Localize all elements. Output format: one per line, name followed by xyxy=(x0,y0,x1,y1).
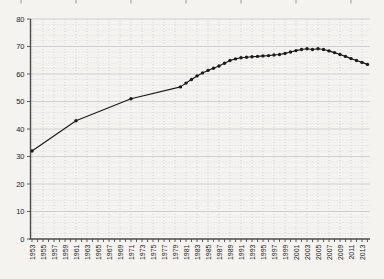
data-point xyxy=(201,71,204,74)
x-tick-label: 1987 xyxy=(216,244,223,260)
line-chart: 0102030405060708019531955195719591961196… xyxy=(0,0,384,279)
data-point xyxy=(316,47,319,50)
data-point xyxy=(30,149,33,152)
x-tick-label: 2003 xyxy=(304,244,311,260)
data-point xyxy=(261,54,264,57)
y-tick-label: 40 xyxy=(16,125,24,134)
data-point xyxy=(300,48,303,51)
x-tick-label: 1979 xyxy=(172,244,179,260)
data-point xyxy=(179,85,182,88)
y-tick-label: 30 xyxy=(16,152,24,161)
y-tick-label: 50 xyxy=(16,97,24,106)
data-point xyxy=(322,48,325,51)
data-point xyxy=(206,69,209,72)
x-tick-label: 1989 xyxy=(227,244,234,260)
data-point xyxy=(344,55,347,58)
x-tick-label: 1991 xyxy=(238,244,245,260)
x-tick-label: 1993 xyxy=(249,244,256,260)
data-point xyxy=(250,55,253,58)
y-tick-label: 10 xyxy=(16,207,24,216)
data-point xyxy=(256,55,259,58)
data-point xyxy=(355,59,358,62)
data-point xyxy=(272,53,275,56)
x-tick-label: 2011 xyxy=(348,244,355,259)
x-tick-label: 1955 xyxy=(40,244,47,260)
x-tick-label: 1985 xyxy=(205,244,212,260)
data-point xyxy=(278,53,281,56)
x-tick-label: 1999 xyxy=(282,244,289,260)
data-point xyxy=(195,74,198,77)
x-tick-label: 1977 xyxy=(161,244,168,260)
data-point xyxy=(338,53,341,56)
data-point xyxy=(333,51,336,54)
x-tick-label: 1973 xyxy=(139,244,146,260)
data-point xyxy=(74,119,77,122)
x-tick-label: 1971 xyxy=(128,244,135,260)
data-point xyxy=(305,47,308,50)
x-tick-label: 1967 xyxy=(106,244,113,260)
data-point xyxy=(289,50,292,53)
data-point xyxy=(294,49,297,52)
data-point xyxy=(239,56,242,59)
data-point xyxy=(190,78,193,81)
y-tick-label: 20 xyxy=(16,180,24,189)
y-tick-label: 80 xyxy=(16,15,24,24)
x-tick-label: 1995 xyxy=(260,244,267,260)
x-tick-label: 1961 xyxy=(73,244,80,260)
data-point xyxy=(184,81,187,84)
x-tick-label: 1953 xyxy=(29,244,36,260)
x-tick-label: 1965 xyxy=(95,244,102,260)
x-tick-label: 2001 xyxy=(293,244,300,260)
data-point xyxy=(267,54,270,57)
data-point xyxy=(327,49,330,52)
x-tick-label: 2007 xyxy=(326,244,333,260)
data-point xyxy=(223,62,226,65)
data-point xyxy=(228,59,231,62)
data-point xyxy=(234,57,237,60)
x-tick-label: 2005 xyxy=(315,244,322,260)
x-tick-label: 1969 xyxy=(117,244,124,260)
x-tick-label: 2009 xyxy=(337,244,344,260)
data-point xyxy=(283,52,286,55)
data-point xyxy=(311,48,314,51)
data-point xyxy=(245,56,248,59)
x-tick-label: 1957 xyxy=(51,244,58,260)
x-tick-label: 1959 xyxy=(62,244,69,260)
data-point xyxy=(217,64,220,67)
data-point xyxy=(349,57,352,60)
x-tick-label: 1975 xyxy=(150,244,157,260)
data-point xyxy=(129,97,132,100)
data-point xyxy=(366,63,369,66)
x-tick-label: 1981 xyxy=(183,244,190,260)
chart-figure: 0102030405060708019531955195719591961196… xyxy=(0,0,384,279)
x-tick-label: 2013 xyxy=(359,244,366,260)
data-line xyxy=(32,49,368,151)
y-tick-label: 60 xyxy=(16,70,24,79)
y-tick-label: 0 xyxy=(20,235,24,244)
x-tick-label: 1963 xyxy=(84,244,91,260)
x-tick-label: 1997 xyxy=(271,244,278,260)
x-tick-label: 1983 xyxy=(194,244,201,260)
y-tick-label: 70 xyxy=(16,42,24,51)
data-point xyxy=(360,61,363,64)
data-point xyxy=(212,67,215,70)
